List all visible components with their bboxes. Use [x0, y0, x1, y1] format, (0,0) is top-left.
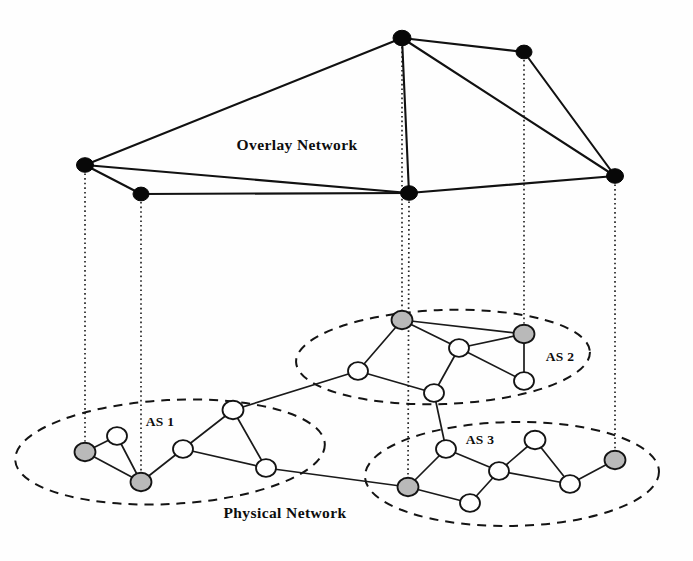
physical-links	[85, 320, 615, 503]
mapping-line	[408, 202, 409, 477]
physical-node[interactable]	[173, 440, 193, 458]
physical-node[interactable]	[489, 462, 509, 480]
physical-node[interactable]	[449, 339, 469, 357]
physical-link	[183, 449, 266, 468]
physical-network-label: Physical Network	[223, 504, 346, 521]
physical-link	[358, 371, 434, 393]
physical-node[interactable]	[424, 384, 444, 402]
overlay-link	[85, 165, 409, 193]
as1-label: AS 1	[146, 414, 175, 429]
overlay-node[interactable]	[516, 45, 532, 59]
overlay-nodes	[77, 30, 624, 201]
overlay-node[interactable]	[401, 186, 418, 201]
overlay-node[interactable]	[77, 158, 94, 173]
overlay-link	[402, 38, 615, 176]
as-boundary-ellipses	[12, 305, 659, 529]
as-boundary-1	[12, 392, 327, 512]
overlay-links	[85, 38, 615, 194]
physical-node[interactable]	[560, 475, 580, 493]
overlay-link	[141, 193, 409, 194]
physical-node[interactable]	[460, 494, 480, 512]
physical-link	[459, 348, 524, 381]
inter-as-link	[266, 468, 408, 487]
physical-node[interactable]	[223, 401, 244, 419]
physical-node[interactable]	[514, 372, 534, 390]
as2-label: AS 2	[546, 349, 575, 364]
gateway-node[interactable]	[75, 443, 96, 461]
overlay-node[interactable]	[607, 169, 624, 184]
inter-as-link	[233, 371, 358, 410]
overlay-link	[409, 176, 615, 193]
physical-node[interactable]	[348, 362, 368, 380]
network-diagram: Overlay NetworkPhysical NetworkAS 1AS 2A…	[0, 0, 693, 561]
physical-node[interactable]	[436, 440, 456, 458]
physical-link	[402, 320, 524, 334]
gateway-node[interactable]	[605, 451, 626, 469]
physical-node[interactable]	[256, 459, 276, 477]
physical-node[interactable]	[107, 427, 127, 445]
gateway-node[interactable]	[514, 325, 535, 343]
overlay-network-label: Overlay Network	[237, 136, 358, 153]
as3-label: AS 3	[466, 432, 495, 447]
overlay-node[interactable]	[133, 187, 149, 201]
overlay-link	[402, 38, 409, 193]
overlay-node[interactable]	[393, 30, 411, 45]
gateway-node[interactable]	[131, 473, 152, 491]
overlay-to-physical-mapping-lines	[85, 47, 615, 477]
network-diagram-canvas: Overlay NetworkPhysical NetworkAS 1AS 2A…	[0, 0, 693, 561]
overlay-link	[524, 52, 615, 176]
gateway-node[interactable]	[392, 311, 413, 329]
physical-node[interactable]	[525, 431, 546, 449]
physical-nodes	[75, 311, 626, 512]
gateway-node[interactable]	[398, 478, 419, 496]
